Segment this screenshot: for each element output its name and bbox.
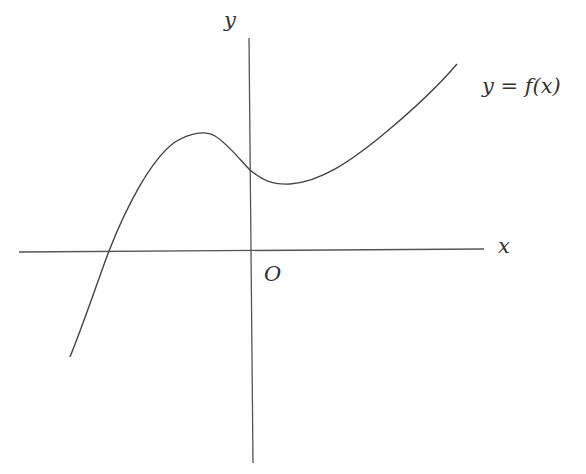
origin-label: O (264, 264, 281, 285)
function-graph-diagram: y x O y = f(x) (0, 0, 586, 474)
function-curve (70, 64, 457, 357)
y-axis-label: y (224, 10, 236, 31)
x-axis-label: x (498, 236, 510, 257)
curve-label: y = f(x) (482, 76, 561, 97)
